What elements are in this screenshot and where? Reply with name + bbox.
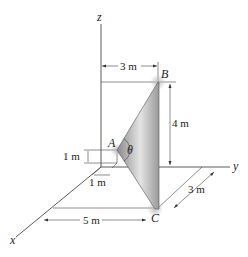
arrowhead (102, 65, 106, 68)
point-b-label: B (161, 67, 169, 81)
dim-3m-top: 3 m (120, 60, 137, 72)
y-axis-label: y (232, 159, 239, 173)
point-a-label: A (107, 136, 116, 150)
point-c-label: C (151, 211, 160, 225)
a-ground-diag2 (92, 167, 101, 175)
arrowhead (142, 219, 146, 222)
x-axis-label: x (9, 233, 16, 247)
triangular-plate (117, 82, 159, 209)
dim-3m-diagonal: 3 m (188, 183, 205, 195)
z-axis-label: z (96, 10, 102, 24)
dim-1m-horizontal: 1 m (89, 176, 106, 188)
dim-1m-vertical: 1 m (63, 150, 80, 162)
arrowhead (169, 84, 172, 88)
arrowhead (44, 219, 48, 222)
dim-5m: 5 m (83, 214, 100, 226)
statics-diagram: z y x 3 m 4 m 1 m 1 m 5 m 3 m (0, 0, 248, 257)
theta-label: θ (127, 143, 133, 157)
dim-4m: 4 m (172, 117, 189, 129)
arrowhead (169, 161, 172, 165)
arrowhead (153, 65, 157, 68)
